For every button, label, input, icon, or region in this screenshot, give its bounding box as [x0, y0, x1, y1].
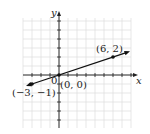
point-6-2: [111, 55, 115, 59]
coordinate-plane: y x 0 (−3, −1) (0, 0) (6, 2): [0, 0, 150, 134]
point-neg3-neg1: [30, 82, 34, 86]
ticks: [32, 21, 131, 120]
point-label-6-2: (6, 2): [96, 43, 123, 54]
y-axis-label: y: [50, 7, 57, 18]
origin-label: 0: [51, 75, 57, 86]
axes: [23, 11, 138, 128]
point-label-neg3-neg1: (−3, −1): [12, 87, 56, 98]
line-arrow-right-icon: [124, 51, 130, 55]
y-axis-arrow-icon: [57, 11, 61, 16]
x-axis-label: x: [136, 75, 142, 86]
point-label-origin: (0, 0): [60, 79, 87, 90]
point-origin: [57, 73, 61, 77]
